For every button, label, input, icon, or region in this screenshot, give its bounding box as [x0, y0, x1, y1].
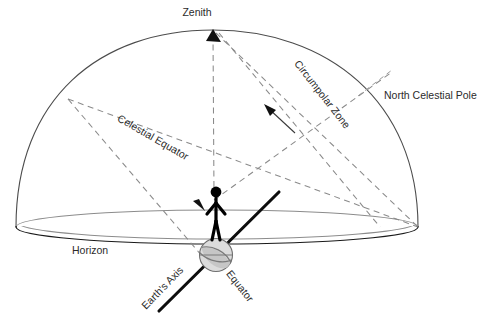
- observer-stick-figure: [207, 187, 225, 240]
- celestial-sphere-figure: Zenith North Celestial Pole Circumpolar …: [0, 0, 499, 323]
- label-horizon: Horizon: [72, 244, 108, 256]
- label-circumpolar-zone: Circumpolar Zone: [292, 58, 353, 131]
- label-equator: Equator: [224, 268, 256, 305]
- label-earths-axis: Earth's Axis: [139, 264, 186, 312]
- celestial-equator-arrowhead: [193, 199, 205, 211]
- label-zenith: Zenith: [182, 6, 211, 18]
- zenith-to-right-rim-line: [216, 33, 418, 227]
- label-north-celestial-pole: North Celestial Pole: [384, 89, 477, 101]
- observer-right-leg: [216, 221, 220, 240]
- zenith-vertical-line: [213, 34, 214, 196]
- celestial-sphere-diagram: Zenith North Celestial Pole Circumpolar …: [0, 0, 499, 323]
- label-celestial-equator: Celestial Equator: [116, 112, 192, 163]
- north-celestial-pole-axis-line: [214, 72, 392, 200]
- observer-head: [211, 187, 222, 198]
